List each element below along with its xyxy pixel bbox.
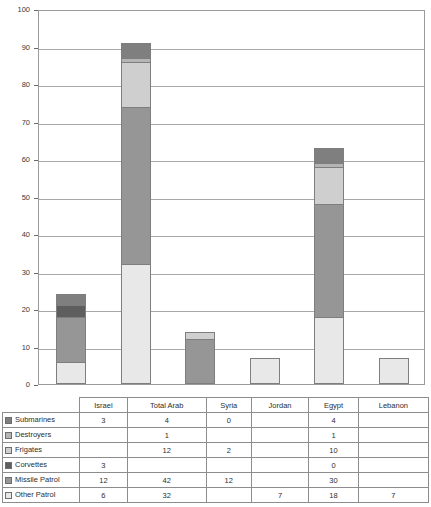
- bar-segment-submarines: [314, 148, 344, 163]
- table-cell: 42: [127, 473, 206, 488]
- legend-swatch-icon: [5, 417, 12, 424]
- legend-swatch-icon: [5, 432, 12, 439]
- table-cell: 1: [309, 428, 359, 443]
- y-axis-tick-label: 60: [4, 156, 30, 164]
- table-column-header: Israel: [80, 398, 128, 413]
- table-cell: [358, 443, 428, 458]
- table-cell: [251, 458, 308, 473]
- table-row: Corvettes30: [3, 458, 429, 473]
- y-axis-tick-label: 80: [4, 81, 30, 89]
- table-cell: [80, 443, 128, 458]
- table-cell: 7: [358, 488, 428, 503]
- legend-swatch-icon: [5, 462, 12, 469]
- plot-area: [38, 10, 425, 385]
- legend-swatch-icon: [5, 477, 12, 484]
- bar-segment-missile-patrol: [56, 317, 86, 362]
- gridline: [39, 49, 424, 50]
- bar-stack-total-arab: [121, 43, 151, 384]
- table-cell: 18: [309, 488, 359, 503]
- gridline: [39, 349, 424, 350]
- bar-segment-frigates: [121, 62, 151, 107]
- table-cell: 7: [251, 488, 308, 503]
- table-cell: [251, 473, 308, 488]
- y-axis-tick-label: 70: [4, 119, 30, 127]
- table-cell: 0: [206, 413, 251, 428]
- table-row: Missile Patrol12421230: [3, 473, 429, 488]
- bar-stack-egypt: [314, 148, 344, 384]
- bar-segment-missile-patrol: [121, 107, 151, 265]
- table-cell: [80, 428, 128, 443]
- gridline: [39, 124, 424, 125]
- table-cell: 1: [127, 428, 206, 443]
- table-cell: [358, 428, 428, 443]
- table-corner-cell: [3, 398, 80, 413]
- bar-stack-lebanon: [379, 358, 409, 384]
- stacked-bar-chart: 0102030405060708090100: [0, 0, 431, 397]
- table-header-row: IsraelTotal ArabSyriaJordanEgyptLebanon: [3, 398, 429, 413]
- legend-series-label: Frigates: [15, 443, 42, 456]
- table-row: Destroyers11: [3, 428, 429, 443]
- table-cell: [251, 428, 308, 443]
- table-cell: 4: [127, 413, 206, 428]
- table-cell: [251, 443, 308, 458]
- bar-segment-submarines: [56, 294, 86, 305]
- y-axis-tick-label: 20: [4, 306, 30, 314]
- bar-segment-other-patrol: [121, 264, 151, 384]
- legend-series-label: Corvettes: [15, 458, 47, 471]
- table-cell: [251, 413, 308, 428]
- y-axis-tick-label: 90: [4, 44, 30, 52]
- table-body: Submarines3404Destroyers11Frigates12210C…: [3, 413, 429, 503]
- gridline: [39, 274, 424, 275]
- bar-segment-other-patrol: [379, 358, 409, 384]
- legend-row-header: Other Patrol: [3, 488, 80, 503]
- legend-series-label: Missile Patrol: [15, 473, 60, 486]
- gridline: [39, 236, 424, 237]
- table-cell: 6: [80, 488, 128, 503]
- bar-stack-jordan: [250, 358, 280, 384]
- y-axis-tick-label: 30: [4, 269, 30, 277]
- table-column-header: Jordan: [251, 398, 308, 413]
- y-axis-tick-label: 50: [4, 194, 30, 202]
- legend-swatch-icon: [5, 492, 12, 499]
- bar-segment-other-patrol: [250, 358, 280, 384]
- y-axis-tick-label: 40: [4, 231, 30, 239]
- y-axis-tick-mark: [34, 385, 38, 386]
- table-cell: 0: [309, 458, 359, 473]
- table-cell: [358, 413, 428, 428]
- table-cell: 3: [80, 413, 128, 428]
- legend-row-header: Missile Patrol: [3, 473, 80, 488]
- bar-segment-missile-patrol: [314, 204, 344, 317]
- legend-swatch-icon: [5, 447, 12, 454]
- table-cell: 32: [127, 488, 206, 503]
- gridline: [39, 311, 424, 312]
- bar-segment-submarines: [121, 43, 151, 58]
- legend-row-header: Submarines: [3, 413, 80, 428]
- gridline: [39, 161, 424, 162]
- table-cell: 3: [80, 458, 128, 473]
- table-cell: [206, 458, 251, 473]
- table-cell: [206, 488, 251, 503]
- y-axis-tick-label: 100: [4, 6, 30, 14]
- legend-series-label: Destroyers: [15, 428, 51, 441]
- bar-segment-other-patrol: [56, 362, 86, 385]
- table-cell: 10: [309, 443, 359, 458]
- table-column-header: Total Arab: [127, 398, 206, 413]
- legend-row-header: Frigates: [3, 443, 80, 458]
- legend-series-label: Submarines: [15, 413, 55, 426]
- table-cell: 4: [309, 413, 359, 428]
- y-axis-tick-label: 10: [4, 344, 30, 352]
- legend-row-header: Corvettes: [3, 458, 80, 473]
- table-column-header: Egypt: [309, 398, 359, 413]
- bar-segment-frigates: [185, 332, 215, 340]
- legend-row-header: Destroyers: [3, 428, 80, 443]
- table-cell: 30: [309, 473, 359, 488]
- table-cell: 12: [80, 473, 128, 488]
- y-axis: 0102030405060708090100: [0, 10, 34, 385]
- table-cell: 12: [206, 473, 251, 488]
- table-row: Other Patrol6327187: [3, 488, 429, 503]
- y-axis-tick-label: 0: [4, 381, 30, 389]
- bar-stack-syria: [185, 332, 215, 385]
- table-row: Submarines3404: [3, 413, 429, 428]
- bar-segment-frigates: [314, 167, 344, 205]
- table-cell: [206, 428, 251, 443]
